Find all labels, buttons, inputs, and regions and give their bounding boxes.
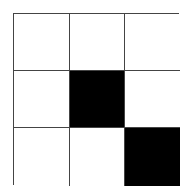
grid-cell-2-0-empty xyxy=(14,128,70,186)
grid-cell-1-0-empty xyxy=(14,71,70,128)
grid-cell-2-2-filled xyxy=(125,128,180,186)
grid-cell-1-2-empty xyxy=(125,71,180,128)
grid-cell-1-1-filled xyxy=(70,71,125,128)
grid-cell-0-0-empty xyxy=(14,14,70,71)
grid-3x3 xyxy=(13,13,179,185)
grid-cell-0-2-empty xyxy=(125,14,180,71)
grid-cell-0-1-empty xyxy=(70,14,125,71)
grid-cell-2-1-empty xyxy=(70,128,125,186)
